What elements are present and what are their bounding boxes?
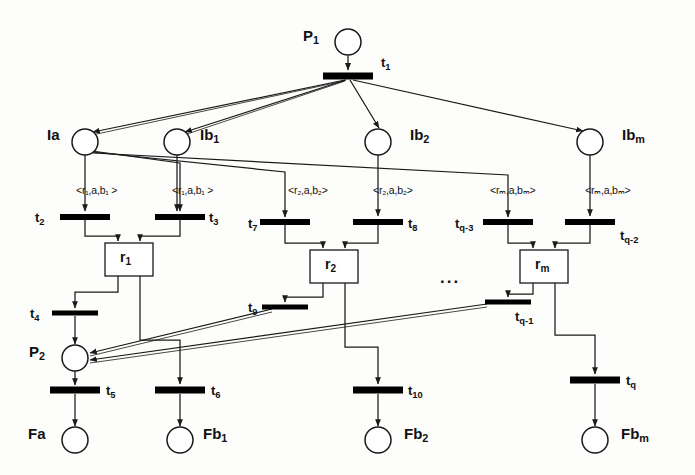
resource-label-r1: r1 [120, 249, 131, 265]
arc-label-arc-rm-a-bm-left: <rₘ,a,bₘ> [490, 184, 535, 196]
arc-label-arc-r2-a-b2-right: <r₂,a,b₂> [373, 184, 413, 196]
resources-layer [105, 243, 568, 283]
arc-r1-t6 [140, 276, 180, 384]
arc-tq1-p2-2 [90, 307, 487, 363]
transition-tq[interactable] [570, 377, 620, 384]
place-label-P2: P2 [29, 343, 45, 360]
place-Ib1[interactable] [164, 129, 190, 155]
arc-t1-ib2 [350, 80, 379, 128]
transition-label-t5: t5 [106, 383, 116, 398]
transition-tq1[interactable] [485, 300, 531, 305]
arc-label-arc-r1-a-b1-left: <r₁,a,b₁ > [76, 184, 117, 196]
place-Fa[interactable] [62, 427, 88, 453]
place-label-Ibm: Ibm [622, 126, 645, 143]
transition-label-t8: t8 [408, 216, 418, 231]
place-Fb2[interactable] [365, 427, 391, 453]
arc-label-arc-r2-a-b2-left: <r₂,a,b₂> [288, 184, 328, 196]
arc-tq2-rm [555, 225, 590, 248]
transition-label-t7: t7 [248, 216, 258, 231]
place-Ib2[interactable] [365, 129, 391, 155]
arc-t7-r2 [285, 225, 323, 248]
arc-tq1-p2 [90, 304, 487, 360]
transition-label-tq3: tq-3 [455, 216, 473, 231]
place-label-Ia: Ia [47, 126, 60, 143]
transition-label-t9: t9 [248, 300, 258, 315]
arc-r2-t9 [285, 283, 323, 302]
transition-t6[interactable] [155, 387, 205, 394]
transition-label-t3: t3 [209, 210, 219, 225]
transition-t7[interactable] [260, 219, 310, 225]
arc-t3-r1 [140, 220, 180, 241]
place-label-P1: P1 [303, 27, 319, 44]
transition-label-tq2: tq-2 [620, 228, 638, 243]
arc-tq3-rm [508, 225, 533, 248]
place-Fbm[interactable] [582, 427, 608, 453]
place-label-Ib1: Ib1 [200, 126, 219, 143]
transition-label-tq1: tq-1 [515, 309, 533, 324]
petri-net-canvas [0, 0, 695, 475]
arc-t9-p2 [90, 309, 272, 353]
transition-label-t1: t1 [381, 55, 391, 70]
resource-label-rm: rm [535, 256, 549, 272]
transition-t10[interactable] [353, 387, 403, 394]
place-label-Fb2: Fb2 [404, 425, 428, 442]
arc-t1-ia [93, 80, 345, 132]
transition-label-tq: tq [626, 373, 636, 388]
transition-label-t2: t2 [35, 210, 45, 225]
place-P1[interactable] [335, 29, 361, 55]
place-Fb1[interactable] [167, 427, 193, 453]
transition-t8[interactable] [353, 219, 403, 225]
resource-label-r2: r2 [325, 256, 336, 272]
transition-t1[interactable] [323, 73, 373, 80]
arc-label-arc-r1-a-b1-right: <r₁,a,b₁ > [172, 184, 213, 196]
arc-t1-ib1 [185, 80, 346, 132]
place-label-Ib2: Ib2 [410, 126, 429, 143]
arc-rm-tq1 [508, 283, 533, 297]
arc-t9-p2-2 [90, 312, 272, 356]
arc-r2-t10 [345, 283, 378, 384]
place-label-Fbm: Fbm [621, 425, 649, 442]
places-layer [62, 29, 608, 453]
transition-t5[interactable] [50, 387, 100, 394]
place-Ia[interactable] [72, 129, 98, 155]
transition-tq2[interactable] [565, 219, 615, 225]
place-P2[interactable] [62, 345, 88, 371]
transition-t3[interactable] [155, 214, 205, 220]
transition-label-t4: t4 [30, 306, 40, 321]
petri-net-diagram: P1IaIb1Ib2IbmP2FaFb1Fb2Fbmt1t2t3t7t8tq-3… [0, 0, 695, 475]
arc-label-arc-rm-a-bm-right: <rₘ,a,bₘ> [585, 184, 630, 196]
ellipsis-middle: ... [440, 268, 460, 288]
arc-t1-ibm [353, 80, 583, 131]
transition-t9[interactable] [262, 305, 308, 310]
transition-label-t6: t6 [211, 383, 221, 398]
arc-r1-t4 [75, 276, 118, 308]
transition-tq3[interactable] [483, 219, 533, 225]
arc-rm-tq [555, 283, 595, 374]
place-label-Fa: Fa [28, 425, 46, 442]
place-Ibm[interactable] [577, 129, 603, 155]
arc-t8-r2 [345, 225, 378, 248]
transition-t4[interactable] [52, 311, 98, 316]
arc-layer [75, 56, 595, 427]
place-label-Fb1: Fb1 [203, 425, 227, 442]
transition-label-t10: t10 [408, 383, 423, 398]
transition-t2[interactable] [60, 214, 110, 220]
arc-t2-r1 [85, 220, 118, 241]
